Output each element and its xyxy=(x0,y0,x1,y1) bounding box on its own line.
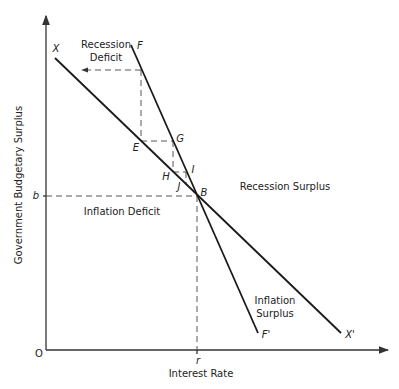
y-axis-label: Government Budgetary Surplus xyxy=(13,106,24,264)
y-tick-b-label: b xyxy=(33,190,39,201)
point-G-label: G xyxy=(176,133,184,144)
recession-deficit-label-line2: Deficit xyxy=(90,52,122,63)
inflation-deficit-label: Inflation Deficit xyxy=(84,206,160,217)
x-start-label: X xyxy=(52,43,61,54)
f-start-label: F xyxy=(137,40,143,51)
recession-deficit-label-line1: Recession xyxy=(81,39,131,50)
x-tick-r-label: r xyxy=(196,355,201,366)
x-end-label: X' xyxy=(344,329,355,340)
x-axis-label: Interest Rate xyxy=(169,368,234,379)
diagram-canvas: Government Budgetary Surplus Interest Ra… xyxy=(0,0,399,389)
f-end-label: F' xyxy=(262,329,271,340)
point-E-label: E xyxy=(133,142,140,153)
inflation-surplus-label-line2: Surplus xyxy=(256,308,293,319)
point-I-label: I xyxy=(192,164,195,175)
inflation-surplus-label-line1: Inflation xyxy=(255,295,296,306)
recession-surplus-label: Recession Surplus xyxy=(240,181,331,192)
point-J-label: J xyxy=(176,181,181,192)
point-B-label: B xyxy=(201,187,208,198)
point-H-label: H xyxy=(162,171,170,182)
origin-label: O xyxy=(35,348,43,359)
